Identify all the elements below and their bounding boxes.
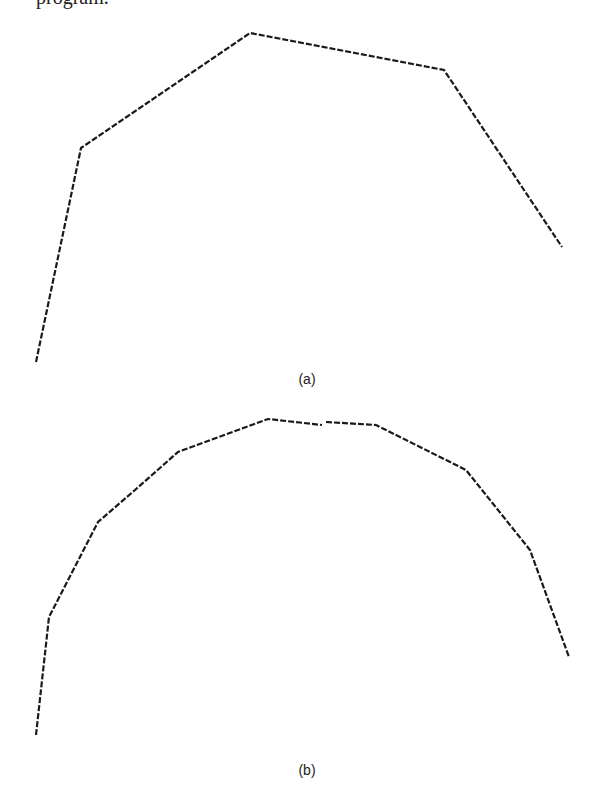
curves-canvas xyxy=(0,0,606,806)
caption-b: (b) xyxy=(277,762,337,778)
caption-a: (a) xyxy=(277,371,337,387)
curve-b-left xyxy=(36,419,322,735)
curve-a xyxy=(36,33,562,362)
curve-b-right xyxy=(326,422,569,657)
